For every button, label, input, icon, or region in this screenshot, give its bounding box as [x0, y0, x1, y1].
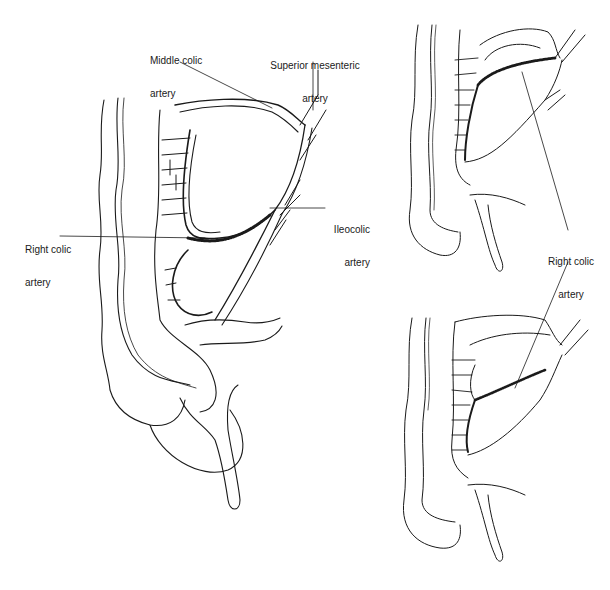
label-right-colic-artery: Right colic artery [25, 222, 71, 299]
label-ileocolic-artery: Ileocolic artery [328, 202, 370, 279]
label-middle-colic-artery: Middle colic artery [150, 33, 202, 110]
variant-leader-lines [515, 72, 568, 388]
label-superior-mesenteric-artery: Superior mesenteric artery [264, 38, 366, 115]
label-right-colic-artery-variant: Right colic artery [538, 234, 604, 311]
main-panel-drawing [99, 70, 326, 509]
variant-bottom-drawing [403, 315, 588, 561]
